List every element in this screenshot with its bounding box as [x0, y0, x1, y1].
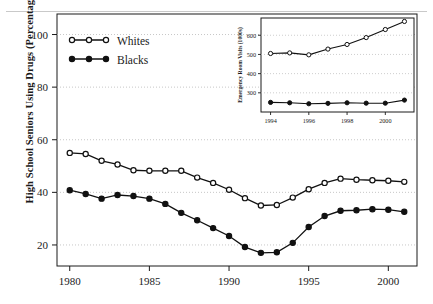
inset-datapoint-whites	[288, 51, 292, 55]
inset-datapoint-blacks	[383, 101, 387, 105]
main-datapoint-blacks	[306, 224, 311, 229]
inset-datapoint-blacks	[307, 102, 311, 106]
main-datapoint-blacks	[211, 226, 216, 231]
inset-ytick-label: 600	[247, 32, 256, 39]
main-datapoint-blacks	[258, 250, 263, 255]
main-datapoint-blacks	[226, 233, 231, 238]
main-y-axis-label: High School Seniors Using Drugs (Percent…	[24, 0, 35, 223]
main-datapoint-blacks	[163, 201, 168, 206]
inset-xtick-label: 1994	[264, 117, 276, 124]
main-datapoint-blacks	[83, 191, 88, 196]
main-datapoint-whites	[99, 158, 104, 163]
main-xtick-label: 1980	[59, 275, 82, 287]
main-datapoint-whites	[354, 177, 359, 182]
main-datapoint-whites	[226, 187, 231, 192]
main-datapoint-blacks	[386, 207, 391, 212]
main-datapoint-blacks	[338, 208, 343, 213]
main-datapoint-whites	[163, 168, 168, 173]
main-datapoint-whites	[402, 179, 407, 184]
main-datapoint-blacks	[370, 207, 375, 212]
inset-y-axis-label: Emergency Room Visits (1000s)	[237, 27, 244, 103]
drug-use-line-chart: 2040608010019801985199019952000WhitesBla…	[0, 0, 433, 304]
main-ytick-label: 40	[37, 186, 49, 198]
main-datapoint-blacks	[290, 240, 295, 245]
main-datapoint-blacks	[354, 208, 359, 213]
main-datapoint-blacks	[131, 193, 136, 198]
legend-marker-blacks	[86, 56, 91, 61]
main-datapoint-whites	[370, 178, 375, 183]
inset-datapoint-blacks	[288, 101, 292, 105]
main-datapoint-whites	[258, 203, 263, 208]
main-datapoint-whites	[338, 176, 343, 181]
main-datapoint-blacks	[67, 188, 72, 193]
main-datapoint-blacks	[147, 196, 152, 201]
legend-marker-whites	[103, 37, 108, 42]
main-datapoint-blacks	[274, 250, 279, 255]
legend-marker-blacks	[69, 56, 74, 61]
main-xtick-label: 1985	[138, 275, 161, 287]
main-datapoint-whites	[115, 162, 120, 167]
inset-xtick-label: 1996	[303, 117, 315, 124]
main-datapoint-whites	[322, 180, 327, 185]
main-datapoint-whites	[131, 168, 136, 173]
main-xtick-label: 1990	[218, 275, 241, 287]
inset-datapoint-whites	[402, 19, 406, 23]
inset-ytick-label: 400	[247, 70, 256, 77]
inset-datapoint-whites	[326, 47, 330, 51]
main-datapoint-whites	[83, 151, 88, 156]
legend-marker-blacks	[103, 56, 108, 61]
inset-ytick-label: 500	[247, 51, 256, 58]
inset-datapoint-blacks	[364, 101, 368, 105]
main-datapoint-whites	[274, 202, 279, 207]
inset-datapoint-whites	[345, 42, 349, 46]
main-datapoint-whites	[242, 196, 247, 201]
main-xtick-label: 1995	[298, 275, 321, 287]
legend-label-blacks: Blacks	[117, 54, 149, 66]
inset-datapoint-blacks	[326, 101, 330, 105]
inset-ytick-label: 300	[247, 89, 256, 96]
page-rule-divider	[6, 11, 427, 12]
main-datapoint-blacks	[402, 209, 407, 214]
main-datapoint-blacks	[242, 244, 247, 249]
main-ytick-label: 80	[37, 81, 49, 93]
inset-plot-frame	[261, 18, 414, 112]
main-datapoint-whites	[306, 187, 311, 192]
main-datapoint-blacks	[195, 218, 200, 223]
inset-datapoint-blacks	[402, 98, 406, 102]
inset-datapoint-blacks	[345, 101, 349, 105]
main-xtick-label: 2000	[377, 275, 400, 287]
main-datapoint-whites	[211, 180, 216, 185]
figure-panel: High School Seniors Using Drugs (Percent…	[0, 0, 433, 304]
main-datapoint-blacks	[115, 192, 120, 197]
inset-datapoint-whites	[307, 53, 311, 57]
main-ytick-label: 60	[37, 134, 49, 146]
main-datapoint-blacks	[322, 213, 327, 218]
inset-datapoint-whites	[268, 51, 272, 55]
main-datapoint-blacks	[99, 196, 104, 201]
main-ytick-label: 20	[37, 239, 49, 251]
main-datapoint-whites	[195, 175, 200, 180]
inset-datapoint-whites	[383, 27, 387, 31]
main-datapoint-whites	[179, 168, 184, 173]
main-datapoint-blacks	[179, 210, 184, 215]
legend-marker-whites	[69, 37, 74, 42]
inset-datapoint-blacks	[268, 100, 272, 104]
main-datapoint-whites	[67, 150, 72, 155]
main-datapoint-whites	[147, 168, 152, 173]
main-datapoint-whites	[290, 195, 295, 200]
main-series-line-blacks	[70, 190, 405, 253]
inset-datapoint-whites	[364, 35, 368, 39]
main-datapoint-whites	[386, 178, 391, 183]
legend-marker-whites	[86, 37, 91, 42]
inset-xtick-label: 2000	[379, 117, 391, 124]
legend-label-whites: Whites	[117, 35, 150, 47]
inset-xtick-label: 1998	[341, 117, 353, 124]
